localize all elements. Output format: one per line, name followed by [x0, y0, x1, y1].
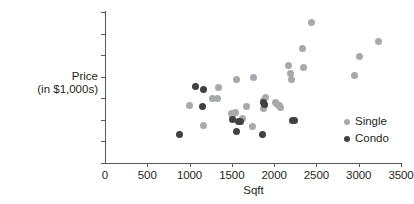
y-axis-title-line2: (in $1,000s) [0, 83, 98, 96]
data-point-single [200, 122, 207, 129]
chart-legend: SingleCondo [344, 112, 389, 146]
y-axis-title-line1: Price [72, 70, 98, 82]
x-tick-mark [147, 163, 148, 167]
x-tick-mark [316, 163, 317, 167]
x-tick-label: 0 [82, 170, 128, 182]
legend-swatch-single-icon [344, 119, 350, 125]
y-tick-mark [101, 34, 105, 35]
data-point-single [300, 64, 307, 71]
data-point-single [233, 76, 240, 83]
x-tick-label: 3500 [378, 170, 414, 182]
x-tick-mark [401, 163, 402, 167]
legend-item-condo[interactable]: Condo [344, 129, 389, 146]
data-point-single [215, 84, 222, 91]
data-point-condo [259, 131, 266, 138]
data-point-condo [200, 86, 207, 93]
legend-label: Single [355, 113, 387, 130]
y-tick-mark [101, 77, 105, 78]
y-tick-mark [101, 55, 105, 56]
x-tick-label: 1500 [209, 170, 255, 182]
x-tick-label: 2000 [251, 170, 297, 182]
y-tick-mark [101, 120, 105, 121]
x-tick-mark [190, 163, 191, 167]
x-axis-line [105, 163, 402, 164]
legend-swatch-condo-icon [344, 136, 350, 142]
data-point-single [214, 95, 221, 102]
data-point-condo [237, 118, 244, 125]
y-tick-mark [101, 98, 105, 99]
x-tick-label: 2500 [293, 170, 339, 182]
x-axis-title: Sqft [105, 185, 402, 197]
scatter-chart: Price (in $1,000s) 010020030040050060070… [0, 0, 414, 204]
y-tick-mark [101, 163, 105, 164]
x-tick-mark [274, 163, 275, 167]
y-axis-title: Price (in $1,000s) [0, 70, 98, 96]
data-point-single [277, 104, 284, 111]
data-point-single [186, 102, 193, 109]
x-tick-mark [232, 163, 233, 167]
legend-item-single[interactable]: Single [344, 112, 389, 129]
y-tick-mark [101, 12, 105, 13]
data-point-condo [176, 131, 183, 138]
x-tick-label: 500 [124, 170, 170, 182]
data-point-single [285, 62, 292, 69]
data-point-single [299, 45, 306, 52]
data-point-condo [291, 117, 298, 124]
data-point-single [243, 103, 250, 110]
x-tick-label: 1000 [167, 170, 213, 182]
data-point-single [250, 74, 257, 81]
x-tick-mark [359, 163, 360, 167]
data-point-single [249, 123, 256, 130]
data-point-single [351, 72, 358, 79]
data-point-single [288, 76, 295, 83]
legend-label: Condo [355, 130, 389, 147]
x-tick-label: 3000 [336, 170, 382, 182]
data-point-single [308, 19, 315, 26]
data-point-single [375, 38, 382, 45]
data-point-condo [233, 128, 240, 135]
y-tick-mark [101, 141, 105, 142]
data-point-condo [192, 83, 199, 90]
data-point-single [356, 53, 363, 60]
data-point-condo [199, 103, 206, 110]
